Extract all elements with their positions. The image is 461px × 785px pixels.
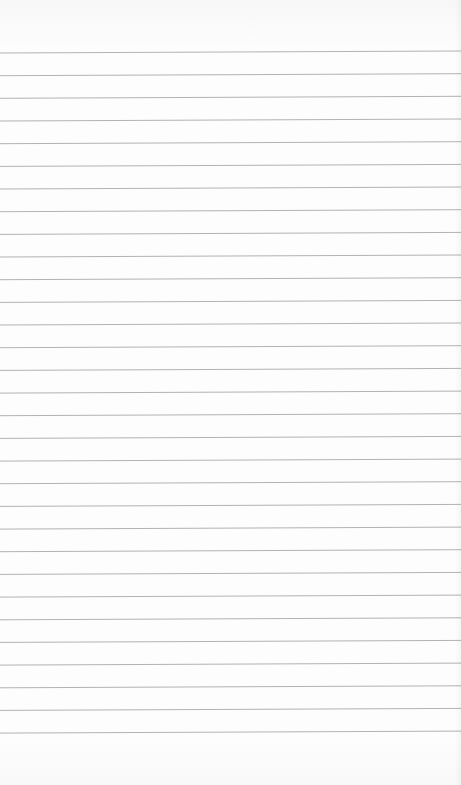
ruled-line [0,663,461,665]
ruled-line [0,572,461,574]
ruled-line [0,210,461,212]
ruled-line [0,618,461,620]
ruled-line [0,391,461,393]
ruled-line [0,731,461,733]
ruled-line [0,142,461,144]
ruled-line [0,550,461,552]
ruled-line [0,300,461,302]
ruled-line [0,96,461,98]
ruled-line [0,686,461,688]
ruled-line [0,527,461,529]
ruled-line [0,164,461,166]
ruled-line [0,187,461,189]
ruled-line [0,119,461,121]
ruled-line [0,708,461,710]
ruled-line [0,346,461,348]
ruled-line [0,278,461,280]
ruled-line [0,368,461,370]
ruled-line [0,74,461,76]
ruled-line [0,51,461,53]
ruled-line [0,595,461,597]
lined-paper-sheet [0,0,461,785]
ruled-line [0,640,461,642]
ruled-line [0,323,461,325]
ruled-line [0,232,461,234]
ruled-line [0,459,461,461]
ruled-line [0,414,461,416]
ruled-line [0,504,461,506]
ruled-line [0,482,461,484]
ruled-line [0,436,461,438]
ruled-line [0,255,461,257]
ruled-lines [0,0,461,785]
